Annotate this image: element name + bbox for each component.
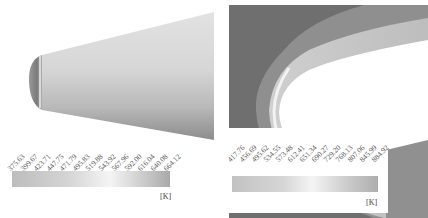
right-panel-flowfield-temperature: 417.76 456.69 495.62 534.55 573.48 612.4… [214,0,428,218]
right-legend: 417.76 456.69 495.62 534.55 573.48 612.4… [228,128,388,213]
right-legend-ticks: 417.76 456.69 495.62 534.55 573.48 612.4… [228,136,388,164]
right-colorbar [232,176,378,192]
left-colorbar [12,171,170,187]
right-unit-label: [K] [366,198,377,207]
wake-region [386,140,428,218]
left-unit-label: [K] [160,192,171,201]
left-panel-surface-temperature: 375.63 399.67 423.71 447.75 471.79 495.8… [0,0,214,218]
left-legend-ticks: 375.63 399.67 423.71 447.75 471.79 495.8… [10,145,180,173]
cone-body [42,12,214,140]
left-legend: 375.63 399.67 423.71 447.75 471.79 495.8… [10,145,180,205]
